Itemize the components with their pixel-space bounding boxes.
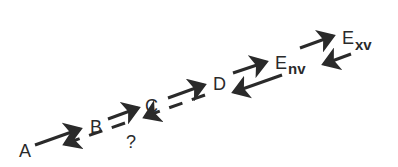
arrow-head-to-a: [65, 141, 72, 144]
unknown-label: ?: [126, 132, 136, 152]
svg-text:xv: xv: [355, 36, 372, 53]
arrow-exv-to-env: [324, 54, 351, 64]
svg-text:nv: nv: [288, 60, 306, 77]
svg-text:E: E: [275, 53, 287, 73]
node-env: E nv: [275, 53, 306, 77]
arrow-a-to-b: [35, 129, 80, 145]
arrow-d-to-env: [233, 62, 266, 73]
node-d: D: [213, 74, 226, 94]
arrow-env-to-d: [234, 75, 282, 92]
arrow-b-to-c: [108, 108, 138, 119]
svg-text:E: E: [342, 28, 354, 48]
arrow-env-to-exv: [300, 36, 333, 48]
node-a: A: [19, 141, 31, 161]
node-exv: E xv: [342, 28, 372, 53]
reaction-diagram: A B C D E nv E xv ?: [0, 0, 398, 167]
